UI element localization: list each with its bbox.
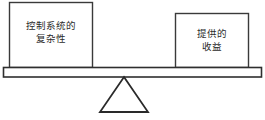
right-label-line-2: 收益 <box>175 41 249 54</box>
left-label-line-1: 控制系统的 <box>9 20 93 33</box>
right-label-line-1: 提供的 <box>175 28 249 41</box>
left-label-line-2: 复杂性 <box>9 33 93 46</box>
balance-scale-graphic <box>0 0 265 120</box>
triangular-fulcrum <box>100 77 148 112</box>
balance-scale-diagram: 控制系统的 复杂性 提供的 收益 <box>0 0 265 120</box>
right-weight-box-label: 提供的 收益 <box>175 28 249 53</box>
balance-beam <box>4 68 262 78</box>
left-weight-box-label: 控制系统的 复杂性 <box>9 20 93 45</box>
